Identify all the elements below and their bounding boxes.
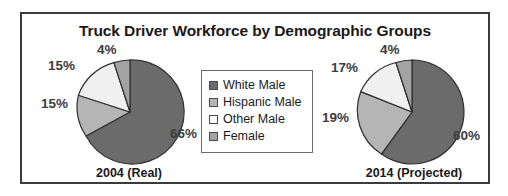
pie-2004-svg <box>44 14 219 186</box>
legend-item-other-male: Other Male <box>209 111 305 127</box>
pie-2014-label-female: 4% <box>380 42 400 57</box>
pie-chart-2014: 60% 19% 17% 4% 2014 (Projected) <box>322 14 508 182</box>
legend-swatch-hispanic-male-icon <box>209 98 218 107</box>
legend-swatch-white-male-icon <box>209 81 218 90</box>
pie-2014-caption: 2014 (Projected) <box>322 166 506 180</box>
legend-label-female: Female <box>223 130 265 143</box>
chart-frame: Truck Driver Workforce by Demographic Gr… <box>20 12 490 184</box>
pie-2004-label-female: 4% <box>97 42 117 57</box>
pie-chart-2004: 66% 15% 15% 4% 2004 (Real) <box>44 14 219 182</box>
legend-label-hispanic-male: Hispanic Male <box>223 96 302 109</box>
pie-2004-label-other-male: 15% <box>48 58 75 73</box>
pie-2014-label-white-male: 60% <box>453 128 480 143</box>
pie-2014-label-hispanic-male: 19% <box>322 110 349 125</box>
legend-item-hispanic-male: Hispanic Male <box>209 94 305 110</box>
legend-swatch-other-male-icon <box>209 115 218 124</box>
legend-item-female: Female <box>209 128 305 144</box>
pie-2004-label-hispanic-male: 15% <box>41 96 68 111</box>
pie-2004-label-white-male: 66% <box>170 126 197 141</box>
legend-label-white-male: White Male <box>223 79 286 92</box>
chart-legend: White Male Hispanic Male Other Male Fema… <box>201 70 313 153</box>
pie-2014-label-other-male: 17% <box>331 60 358 75</box>
legend-label-other-male: Other Male <box>223 113 285 126</box>
chart-figure: Truck Driver Workforce by Demographic Gr… <box>0 0 508 196</box>
pie-2004-caption: 2004 (Real) <box>44 166 214 180</box>
pie-2014-svg <box>322 14 508 186</box>
legend-swatch-female-icon <box>209 132 218 141</box>
legend-item-white-male: White Male <box>209 77 305 93</box>
